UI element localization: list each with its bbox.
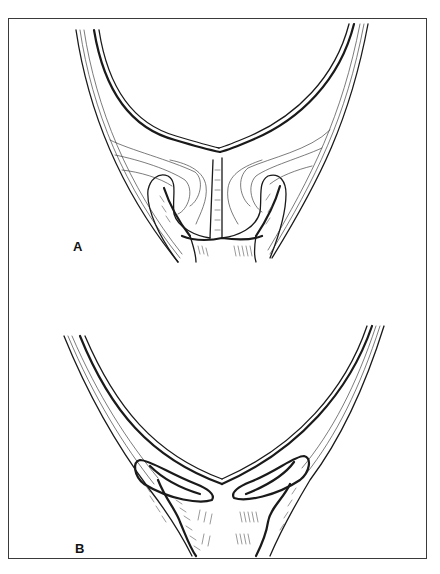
anatomical-illustration [0,0,440,574]
panel-b-drawing [64,326,384,556]
panel-label-b: B [75,541,84,556]
panel-label-a: A [73,239,82,254]
panel-a-drawing [76,24,368,262]
